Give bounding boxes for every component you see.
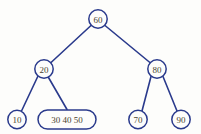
node-right-internal-label: 80 bbox=[153, 65, 163, 75]
edge-root-to-right-internal bbox=[105, 26, 151, 64]
node-left-internal-label: 20 bbox=[40, 65, 50, 75]
node-leaf-30-40-50-label: 30 40 50 bbox=[51, 115, 83, 125]
node-leaf-30-40-50[interactable]: 30 40 50 bbox=[38, 110, 96, 129]
node-right-internal[interactable]: 80 bbox=[148, 60, 166, 78]
node-leaf-70[interactable]: 70 bbox=[129, 110, 147, 128]
node-left-internal[interactable]: 20 bbox=[35, 60, 53, 78]
tree-canvas: 60 20 80 10 30 40 50 70 90 bbox=[0, 0, 201, 134]
edge-right-internal-to-leaf-70 bbox=[142, 77, 151, 112]
node-root-label: 60 bbox=[94, 15, 104, 25]
edge-root-to-left-internal bbox=[51, 26, 92, 64]
node-leaf-10[interactable]: 10 bbox=[8, 110, 26, 128]
node-root[interactable]: 60 bbox=[89, 10, 107, 28]
b-tree-diagram: 60 20 80 10 30 40 50 70 90 bbox=[0, 0, 201, 134]
edge-left-internal-to-leaf-30-40-50 bbox=[49, 78, 68, 110]
edge-left-internal-to-leaf-10 bbox=[22, 76, 39, 111]
node-leaf-90[interactable]: 90 bbox=[172, 110, 190, 128]
node-leaf-10-label: 10 bbox=[13, 115, 23, 125]
node-leaf-70-label: 70 bbox=[134, 115, 144, 125]
edge-right-internal-to-leaf-90 bbox=[163, 77, 177, 112]
node-leaf-90-label: 90 bbox=[177, 115, 187, 125]
